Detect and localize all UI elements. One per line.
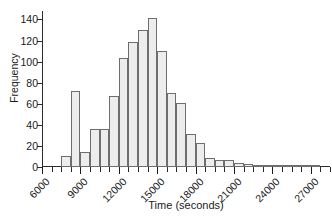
x-tick-mark-minor — [186, 167, 187, 172]
histogram-bar — [272, 165, 282, 167]
histogram-bar — [282, 165, 292, 167]
y-tick-label: 60 — [14, 99, 38, 109]
histogram-bar — [176, 103, 186, 167]
histogram-figure: Frequency 020406080100120140 60009000120… — [0, 0, 332, 216]
x-tick-mark — [196, 167, 197, 174]
x-tick-mark-minor — [263, 167, 264, 172]
x-tick-mark-minor — [320, 167, 321, 172]
x-tick-mark — [42, 167, 43, 174]
histogram-bar — [157, 51, 167, 167]
histogram-bar — [80, 152, 90, 167]
plot-area — [42, 11, 330, 167]
histogram-bar — [205, 158, 215, 167]
y-tick-label: 80 — [14, 78, 38, 88]
histogram-bar — [128, 42, 138, 167]
histogram-bar — [253, 165, 263, 167]
histogram-bar — [167, 93, 177, 167]
histogram-bar — [215, 160, 225, 167]
x-tick-mark-minor — [167, 167, 168, 172]
x-tick-mark — [234, 167, 235, 174]
histogram-bar — [100, 129, 110, 167]
x-tick-mark-minor — [100, 167, 101, 172]
histogram-bar — [224, 160, 234, 167]
y-tick-label: 0 — [14, 162, 38, 172]
x-tick-mark-minor — [292, 167, 293, 172]
histogram-bar — [119, 58, 129, 167]
histogram-bar — [61, 156, 71, 167]
x-tick-mark-minor — [253, 167, 254, 172]
x-tick-mark — [119, 167, 120, 174]
y-tick-label: 120 — [14, 36, 38, 46]
x-tick-mark-minor — [138, 167, 139, 172]
x-tick-mark-minor — [215, 167, 216, 172]
x-tick-mark — [80, 167, 81, 174]
histogram-bar — [263, 165, 273, 167]
x-tick-mark-minor — [224, 167, 225, 172]
x-tick-mark — [272, 167, 273, 174]
x-tick-mark — [311, 167, 312, 174]
histogram-bar — [90, 129, 100, 167]
x-tick-mark-minor — [301, 167, 302, 172]
x-tick-mark-minor — [330, 167, 331, 172]
histogram-bar — [311, 165, 321, 167]
histogram-bar — [292, 165, 302, 167]
x-tick-mark-minor — [282, 167, 283, 172]
histogram-bar — [186, 134, 196, 167]
histogram-bar — [148, 18, 158, 167]
histogram-bar — [234, 163, 244, 167]
histogram-bar — [109, 96, 119, 167]
x-tick-mark-minor — [148, 167, 149, 172]
x-axis-title: Time (seconds) — [42, 199, 330, 212]
y-tick-label: 20 — [14, 141, 38, 151]
x-tick-mark-minor — [176, 167, 177, 172]
x-tick-mark-minor — [205, 167, 206, 172]
x-tick-mark-minor — [244, 167, 245, 172]
y-tick-label: 100 — [14, 57, 38, 67]
y-tick-label: 140 — [14, 14, 38, 24]
x-tick-mark-minor — [61, 167, 62, 172]
x-tick-mark-minor — [71, 167, 72, 172]
x-tick-mark — [157, 167, 158, 174]
x-tick-mark-minor — [52, 167, 53, 172]
histogram-bar — [138, 30, 148, 167]
histogram-bar — [301, 165, 311, 167]
x-tick-mark-minor — [90, 167, 91, 172]
y-tick-label: 40 — [14, 120, 38, 130]
x-tick-mark-minor — [109, 167, 110, 172]
histogram-bar — [244, 164, 254, 167]
x-tick-mark-minor — [128, 167, 129, 172]
histogram-bar — [71, 91, 81, 167]
histogram-bar — [196, 143, 206, 167]
